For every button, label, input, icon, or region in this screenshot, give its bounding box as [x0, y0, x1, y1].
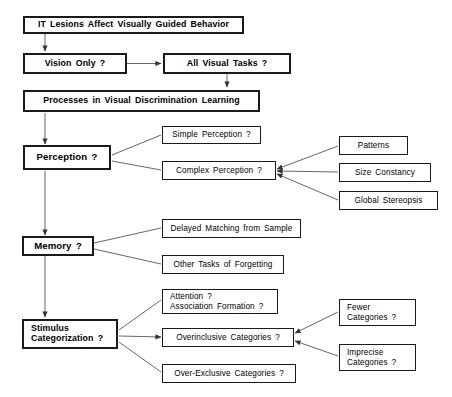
node-memory-label: Memory ?: [31, 241, 85, 252]
connector-imprecise-categories-to-overinclusive: [295, 341, 338, 356]
node-stimulus-categorization-label: Stimulus Categorization ?: [24, 324, 106, 344]
node-delayed-matching-label: Delayed Matching from Sample: [168, 224, 296, 233]
node-overinclusive[interactable]: Overinclusive Categories ?: [162, 328, 294, 347]
connector-memory-to-delayed-matching: [94, 228, 161, 243]
node-vision-only[interactable]: Vision Only ?: [23, 53, 127, 74]
node-patterns[interactable]: Patterns: [339, 136, 408, 155]
node-other-tasks-label: Other Tasks of Forgetting: [170, 260, 275, 269]
node-attention[interactable]: Attention ? Association Formation ?: [162, 289, 278, 314]
node-memory[interactable]: Memory ?: [22, 236, 94, 256]
node-fewer-categories[interactable]: Fewer Categories ?: [339, 299, 416, 326]
node-complex-perception-label: Complex Perception ?: [173, 166, 265, 175]
node-global-stereopsis-label: Global Stereopsis: [352, 196, 426, 205]
node-attention-label: Attention ? Association Formation ?: [163, 292, 266, 310]
node-root[interactable]: IT Lesions Affect Visually Guided Behavi…: [23, 16, 244, 34]
node-other-tasks[interactable]: Other Tasks of Forgetting: [162, 255, 284, 274]
node-overinclusive-label: Overinclusive Categories ?: [173, 333, 283, 342]
node-stimulus-categorization[interactable]: Stimulus Categorization ?: [22, 319, 118, 349]
node-all-visual-tasks-label: All Visual Tasks ?: [184, 59, 271, 69]
node-vision-only-label: Vision Only ?: [42, 59, 109, 69]
connector-memory-to-other-tasks: [94, 249, 161, 264]
connector-size-constancy-to-complex-perception: [277, 171, 338, 172]
flowchart-canvas: IT Lesions Affect Visually Guided Behavi…: [0, 0, 452, 397]
node-simple-perception-label: Simple Perception ?: [169, 130, 253, 139]
node-size-constancy-label: Size Constancy: [352, 168, 418, 177]
node-processes-label: Processes in Visual Discrimination Learn…: [40, 96, 242, 106]
node-delayed-matching[interactable]: Delayed Matching from Sample: [162, 219, 301, 238]
node-imprecise-categories[interactable]: Imprecise Categories ?: [339, 344, 416, 371]
node-processes[interactable]: Processes in Visual Discrimination Learn…: [23, 90, 260, 112]
node-global-stereopsis[interactable]: Global Stereopsis: [339, 191, 438, 210]
connector-stimulus-to-attention: [119, 300, 161, 330]
node-all-visual-tasks[interactable]: All Visual Tasks ?: [163, 53, 291, 74]
node-complex-perception[interactable]: Complex Perception ?: [162, 161, 276, 180]
node-size-constancy[interactable]: Size Constancy: [339, 163, 431, 182]
connector-patterns-to-complex-perception: [277, 146, 338, 169]
node-over-exclusive[interactable]: Over-Exclusive Categories ?: [162, 364, 296, 383]
node-perception[interactable]: Perception ?: [23, 145, 111, 170]
connector-perception-to-simple-perception: [112, 135, 161, 155]
connector-stimulus-to-overinclusive: [119, 336, 161, 337]
node-over-exclusive-label: Over-Exclusive Categories ?: [171, 369, 287, 378]
node-fewer-categories-label: Fewer Categories ?: [340, 303, 399, 321]
node-simple-perception[interactable]: Simple Perception ?: [162, 126, 261, 144]
connector-global-stereopsis-to-complex-perception: [277, 174, 338, 200]
node-root-label: IT Lesions Affect Visually Guided Behavi…: [35, 20, 232, 30]
connector-stimulus-to-over-exclusive: [119, 342, 161, 372]
node-perception-label: Perception ?: [34, 152, 101, 163]
node-imprecise-categories-label: Imprecise Categories ?: [340, 348, 399, 366]
connector-fewer-categories-to-overinclusive: [295, 312, 338, 333]
node-patterns-label: Patterns: [355, 141, 392, 150]
connector-perception-to-complex-perception: [112, 161, 161, 170]
